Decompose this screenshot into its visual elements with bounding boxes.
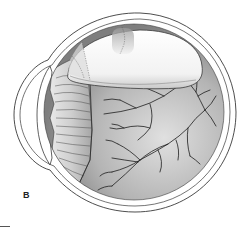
corner-rule: [0, 226, 10, 227]
eye-illustration: [0, 0, 238, 229]
panel-label: B: [23, 190, 30, 200]
retinal-fold: [112, 28, 134, 54]
